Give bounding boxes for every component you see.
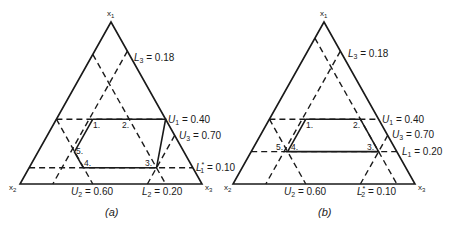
panel-a: x1 x2 x3 L3 = 0.18 U1 = 0.40 U3 = 0.70 L… <box>9 9 236 218</box>
point-label-1: 1. <box>93 120 100 130</box>
label-l2: L2 = 0.20 <box>142 186 183 198</box>
vertex-label-x2: x2 <box>224 183 232 193</box>
label-u3: U3 = 0.70 <box>179 130 221 142</box>
label-u2: U2 = 0.60 <box>71 186 113 198</box>
point-label-2: 2. <box>353 120 360 130</box>
label-l3: L3 = 0.18 <box>134 52 175 64</box>
point-label-3: 3. <box>145 158 152 168</box>
label-l2-star: L*2 = 0.10 <box>357 185 397 198</box>
label-l1-star: L*1 = 0.10 <box>196 161 236 174</box>
ternary-constraint-diagram: x1 x2 x3 L3 = 0.18 U1 = 0.40 U3 = 0.70 L… <box>0 0 453 231</box>
label-u1: U1 = 0.40 <box>168 114 210 126</box>
vertex-label-x1: x1 <box>107 9 115 19</box>
vertex-label-x3: x3 <box>205 183 213 193</box>
point-label-3: 3. <box>367 142 374 152</box>
point-label-2: 2. <box>122 120 129 130</box>
point-label-1: 1. <box>306 120 313 130</box>
point-label-5: 5. <box>76 146 83 156</box>
caption-a: (a) <box>105 206 119 218</box>
caption-b: (b) <box>318 206 332 218</box>
constraint-line-l3 <box>266 51 341 184</box>
label-u2: U2 = 0.60 <box>284 186 326 198</box>
vertex-label-x1: x1 <box>320 9 328 19</box>
point-label-4: 4. <box>291 142 298 152</box>
constraint-line-l2-star <box>315 38 397 184</box>
panel-b: x1 x2 x3 L3 = 0.18 U1 = 0.40 U3 = 0.70 L… <box>224 9 443 218</box>
label-u3: U3 = 0.70 <box>392 129 434 141</box>
vertex-label-x2: x2 <box>9 183 17 193</box>
feasible-region-b <box>288 119 379 151</box>
point-label-4: 4. <box>84 158 91 168</box>
simplex-triangle-b <box>233 22 415 184</box>
label-l1: L1 = 0.20 <box>402 146 443 158</box>
point-label-5: 5. <box>276 142 283 152</box>
vertex-label-x3: x3 <box>418 183 426 193</box>
label-u1: U1 = 0.40 <box>382 114 424 126</box>
label-l3: L3 = 0.18 <box>348 48 389 60</box>
simplex-triangle-a <box>20 22 202 184</box>
